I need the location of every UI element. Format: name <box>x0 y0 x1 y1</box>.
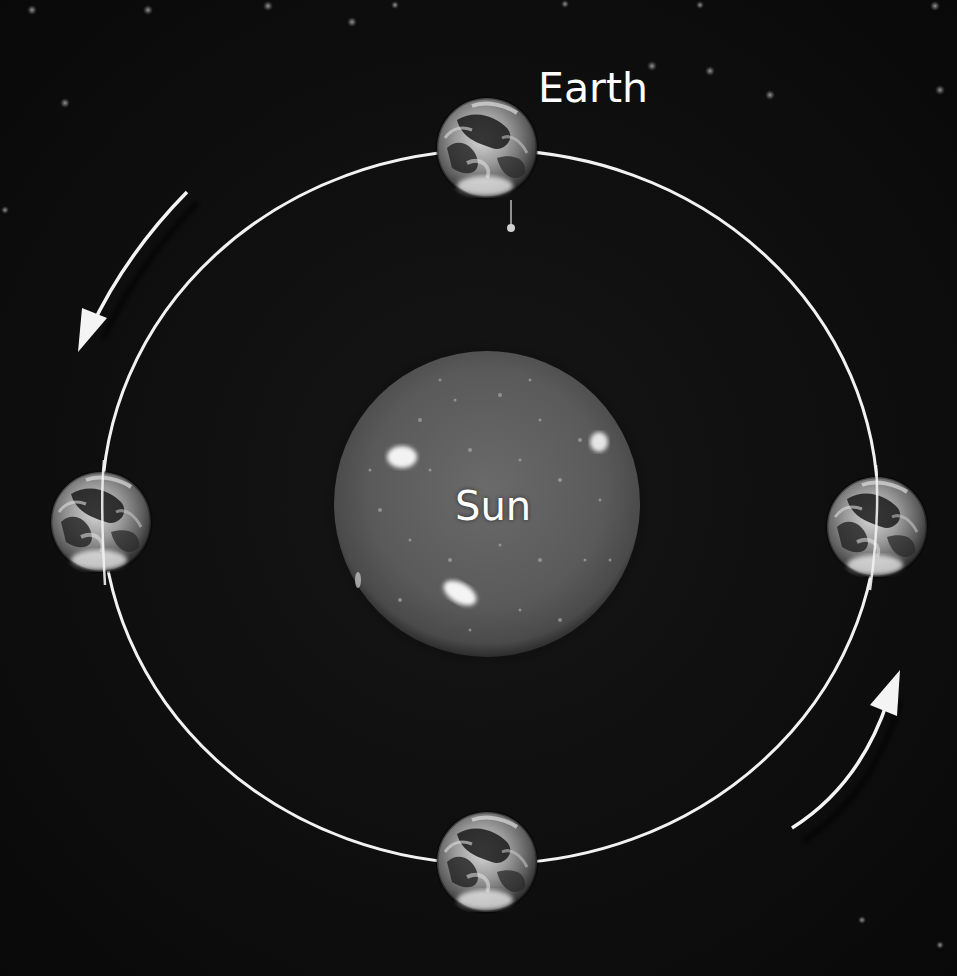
earth-top <box>437 98 537 198</box>
orbit-diagram: Earth Sun <box>0 0 957 976</box>
sun-label: Sun <box>455 486 531 526</box>
earth-left <box>51 472 151 572</box>
earth-label: Earth <box>538 68 648 109</box>
arrow-upper-left-icon <box>78 192 198 352</box>
moon <box>507 224 515 232</box>
arrow-lower-right-icon <box>792 670 900 841</box>
earth-bottom <box>437 812 537 912</box>
